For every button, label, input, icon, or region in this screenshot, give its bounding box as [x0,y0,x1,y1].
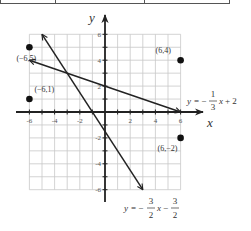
point-marker [26,44,33,51]
y-tick-label: -4 [95,160,101,168]
y-axis-label: y [87,10,95,25]
svg-text:−: − [163,203,168,213]
y-tick-label: 4 [98,57,102,65]
point-label: (−6,5) [16,54,36,63]
point-label: (−6,1) [34,85,54,94]
svg-text:y: y [186,96,191,106]
point-label: (6,−2) [158,144,178,153]
svg-text:3: 3 [149,196,154,206]
point-marker [177,57,184,64]
equation-label-2: y= −32x−32 [123,196,179,220]
svg-text:3: 3 [211,102,216,112]
equation-label-1: y= −13x+ 2 [186,89,237,112]
y-tick-label: -2 [95,134,101,142]
svg-text:2: 2 [149,210,154,220]
point-label: (6,4) [156,46,172,55]
svg-text:+ 2: + 2 [225,96,237,106]
x-tick-label: 6 [179,117,183,125]
x-tick-label: -6 [26,117,32,125]
coordinate-plane: xy -6-4-2246642-2-4-6 (−6,5)(−6,1)(6,4)(… [0,0,251,231]
y-tick-label: -6 [95,186,101,194]
svg-text:3: 3 [173,196,178,206]
x-tick-label: -2 [77,117,83,125]
x-tick-label: -4 [52,117,58,125]
point-marker [26,96,33,103]
svg-text:= −: = − [194,96,206,106]
equation-labels: y= −13x+ 2y= −32x−32 [123,89,237,220]
svg-text:y: y [123,203,128,213]
y-tick-label: 6 [98,31,102,39]
svg-text:x: x [156,203,161,213]
point-marker [177,135,184,142]
x-tick-label: 4 [154,117,158,125]
x-axis-label: x [206,115,213,130]
svg-text:1: 1 [211,89,216,99]
svg-text:= −: = − [131,203,143,213]
x-tick-label: 2 [128,117,132,125]
svg-text:x: x [218,96,223,106]
svg-text:2: 2 [173,210,178,220]
